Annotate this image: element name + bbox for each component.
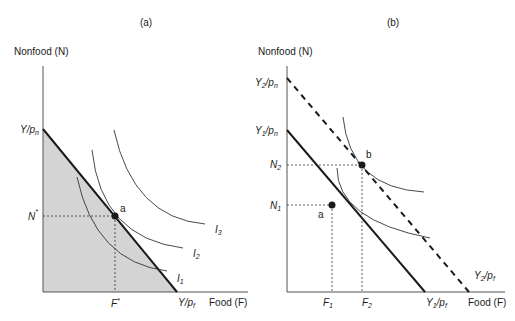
panel-b-title: (b) <box>387 17 399 28</box>
y-intercept-label: Y/pn <box>20 124 39 136</box>
point-b-label: b <box>366 149 372 160</box>
y1-pn-label: Y1/pn <box>255 125 278 137</box>
y2-pn-label: Y2/pn <box>255 77 278 89</box>
n1-label: N1 <box>270 200 281 212</box>
panel-a-y-axis-label: Nonfood (N) <box>14 46 68 57</box>
i2-label: I2 <box>193 248 200 260</box>
i3-label: I3 <box>215 224 222 236</box>
panel-b-x-axis-label: Food (F) <box>468 297 506 308</box>
f1-label: F1 <box>323 297 333 309</box>
indifference-curve-upper <box>343 117 424 192</box>
panel-a-title: (a) <box>140 17 152 28</box>
y1-pf-label: Y1/pf <box>426 297 448 309</box>
indifference-curve-i3 <box>114 130 205 224</box>
n-star-label: N* <box>28 208 38 222</box>
y2-pf-label: Y2/pf <box>474 270 496 282</box>
f2-label: F2 <box>362 297 372 309</box>
panel-a: (a) Nonfood (N) a Y/pn N* F* Y/pf Food (… <box>14 17 248 309</box>
panel-a-x-axis-label: Food (F) <box>209 297 247 308</box>
panel-b-y-axis-label: Nonfood (N) <box>258 46 312 57</box>
indifference-curve-lower <box>337 168 430 238</box>
i1-label: I1 <box>177 273 184 285</box>
optimum-point-a <box>112 213 119 220</box>
point-a-label-b: a <box>318 209 324 220</box>
budget-line-y2 <box>287 78 469 292</box>
x-intercept-label: Y/pf <box>178 297 196 309</box>
figure-canvas: (a) Nonfood (N) a Y/pn N* F* Y/pf Food (… <box>0 0 515 321</box>
point-a-label: a <box>120 203 126 214</box>
point-a <box>329 202 336 209</box>
n2-label: N2 <box>270 159 281 171</box>
point-b <box>359 162 366 169</box>
panel-b: (b) Nonfood (N) a b Y2/pn Y1/pn N2 N1 F1… <box>255 17 506 309</box>
f-star-label: F* <box>111 297 120 309</box>
budget-line-y1 <box>287 130 425 292</box>
